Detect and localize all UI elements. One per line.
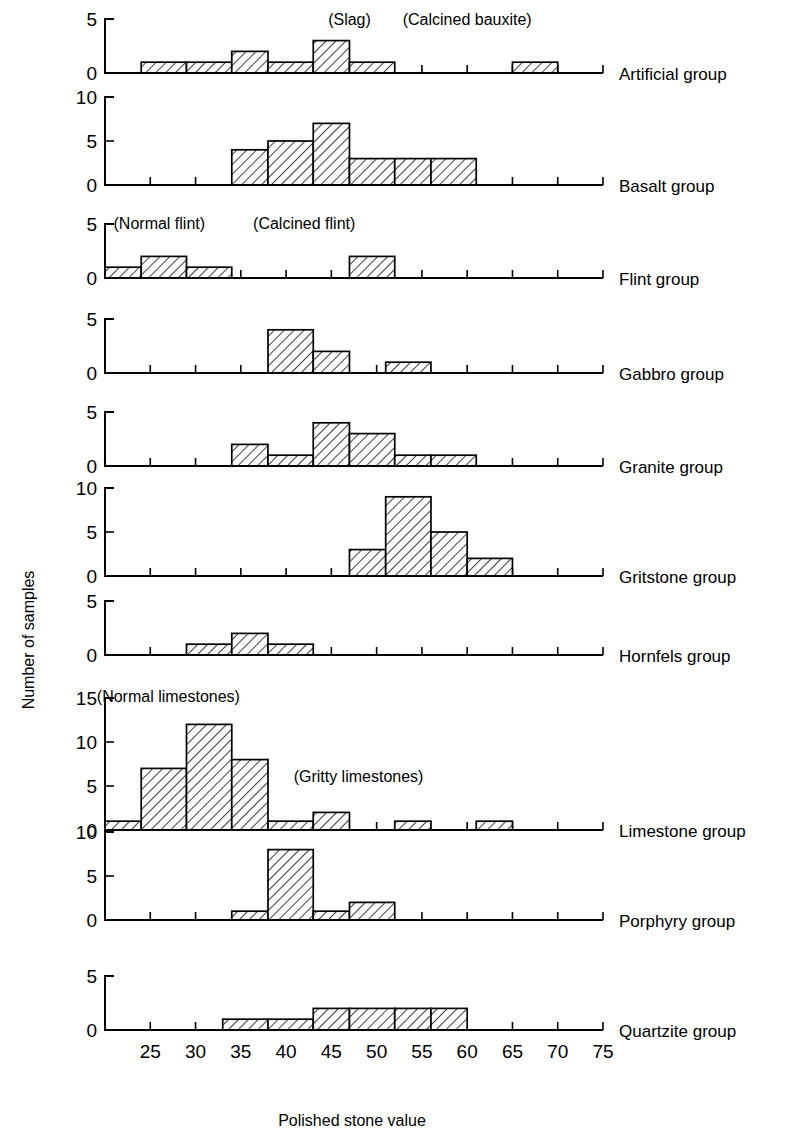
histogram-bar: [313, 911, 349, 920]
histogram-bar: [386, 497, 431, 576]
histogram-bar: [268, 455, 313, 466]
histogram-bar: [268, 850, 313, 920]
panel-basalt-group: 0510Basalt group: [76, 87, 715, 196]
histogram-bar: [349, 1008, 394, 1030]
x-tick-label: 40: [276, 1041, 297, 1062]
histogram-bar: [105, 821, 141, 830]
histogram-bar: [268, 1019, 313, 1030]
panel-title: Porphyry group: [619, 912, 735, 931]
histogram-bar: [431, 159, 476, 185]
panel-title: Quartzite group: [619, 1022, 736, 1041]
y-tick-label: 15: [76, 688, 97, 709]
histogram-bar: [313, 123, 349, 185]
histogram-bar: [186, 644, 231, 655]
histogram-bar: [232, 150, 268, 185]
histogram-bar: [313, 1008, 349, 1030]
y-tick-label: 0: [86, 566, 97, 587]
x-tick-label: 50: [366, 1041, 387, 1062]
histogram-bar: [395, 821, 431, 830]
panel-annotation: (Slag): [328, 11, 371, 28]
panel-gritstone-group: 0510Gritstone group: [76, 478, 736, 587]
x-tick-label: 25: [140, 1041, 161, 1062]
y-tick-label: 5: [86, 522, 97, 543]
panel-limestone-group: 051015(Normal limestones)(Gritty limesto…: [76, 688, 746, 841]
y-tick-label: 5: [86, 591, 97, 612]
panel-title: Hornfels group: [619, 647, 731, 666]
panel-annotation: (Gritty limestones): [294, 768, 424, 785]
histogram-figure: 05(Slag)(Calcined bauxite)Artificial gro…: [0, 0, 804, 1142]
x-tick-label: 30: [185, 1041, 206, 1062]
histogram-bar: [186, 724, 231, 830]
histogram-bar: [186, 267, 231, 278]
y-tick-label: 0: [86, 363, 97, 384]
y-tick-label: 0: [86, 63, 97, 84]
histogram-bar: [386, 362, 431, 373]
histogram-bar: [395, 455, 431, 466]
panel-title: Gritstone group: [619, 568, 736, 587]
y-tick-label: 10: [76, 478, 97, 499]
panel-artificial-group: 05(Slag)(Calcined bauxite)Artificial gro…: [86, 9, 726, 84]
panel-title: Flint group: [619, 270, 699, 289]
y-tick-label: 5: [86, 309, 97, 330]
histogram-bar: [349, 62, 394, 73]
y-tick-label: 5: [86, 402, 97, 423]
y-tick-label: 5: [86, 776, 97, 797]
histogram-bar: [512, 62, 557, 73]
histogram-bar: [476, 821, 512, 830]
panel-flint-group: 05(Normal flint)(Calcined flint)Flint gr…: [86, 214, 699, 289]
y-tick-label: 5: [86, 131, 97, 152]
y-tick-label: 10: [76, 87, 97, 108]
panel-title: Basalt group: [619, 177, 714, 196]
y-tick-label: 0: [86, 175, 97, 196]
histogram-bar: [232, 51, 268, 73]
histogram-bar: [232, 911, 268, 920]
histogram-bar: [467, 558, 512, 576]
panel-annotation: (Calcined bauxite): [403, 11, 532, 28]
x-tick-label: 60: [457, 1041, 478, 1062]
panel-axis-line: [105, 319, 603, 373]
y-tick-label: 0: [86, 268, 97, 289]
x-tick-label: 75: [592, 1041, 613, 1062]
y-tick-label: 0: [86, 456, 97, 477]
histogram-bar: [186, 62, 231, 73]
y-tick-label: 0: [86, 645, 97, 666]
histogram-bar: [431, 455, 476, 466]
histogram-bar: [395, 159, 431, 185]
histogram-bar: [313, 41, 349, 73]
histogram-bar: [349, 159, 394, 185]
histogram-bar: [349, 550, 385, 576]
panel-granite-group: 05Granite group: [86, 402, 723, 477]
y-tick-label: 0: [86, 1020, 97, 1041]
histogram-bar: [232, 760, 268, 830]
histogram-bar: [105, 267, 141, 278]
y-tick-label: 5: [86, 866, 97, 887]
chart-canvas: 05(Slag)(Calcined bauxite)Artificial gro…: [0, 0, 804, 1142]
panel-gabbro-group: 05Gabbro group: [86, 309, 723, 384]
x-axis-title: Polished stone value: [278, 1112, 426, 1129]
histogram-bar: [141, 768, 186, 830]
histogram-bar: [431, 1008, 467, 1030]
panel-annotation: (Normal limestones): [97, 688, 240, 705]
y-tick-label: 5: [86, 9, 97, 30]
histogram-bar: [313, 423, 349, 466]
histogram-bar: [268, 141, 313, 185]
y-tick-label: 5: [86, 214, 97, 235]
histogram-bar: [349, 902, 394, 920]
histogram-bar: [268, 644, 313, 655]
x-tick-label: 55: [411, 1041, 432, 1062]
histogram-bar: [395, 1008, 431, 1030]
panel-title: Artificial group: [619, 65, 727, 84]
histogram-bar: [223, 1019, 268, 1030]
histogram-bar: [431, 532, 467, 576]
histogram-bar: [349, 434, 394, 466]
y-tick-label: 5: [86, 966, 97, 987]
panels-layer: 05(Slag)(Calcined bauxite)Artificial gro…: [76, 9, 746, 1041]
panel-hornfels-group: 05Hornfels group: [86, 591, 730, 666]
histogram-bar: [141, 256, 186, 278]
y-tick-label: 10: [76, 732, 97, 753]
panel-annotation: (Normal flint): [114, 215, 206, 232]
histogram-bar: [268, 330, 313, 373]
histogram-bar: [349, 256, 394, 278]
histogram-bar: [313, 812, 349, 830]
panel-annotation: (Calcined flint): [253, 215, 355, 232]
